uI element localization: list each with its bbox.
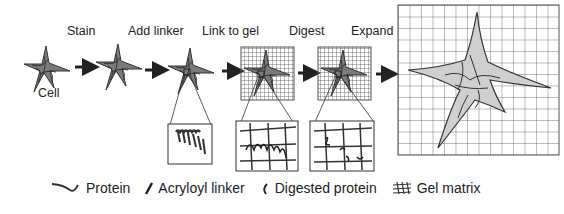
step-label-cell: Cell xyxy=(38,86,60,100)
legend-label: Digested protein xyxy=(275,180,377,196)
legend-item-gel-matrix: Gel matrix xyxy=(391,180,481,196)
gel-matrix-icon xyxy=(391,181,413,195)
step-label-digest: Digest xyxy=(289,24,324,38)
step-label-link-to-gel: Link to gel xyxy=(202,24,259,38)
linker-cell-illustration xyxy=(168,48,214,164)
expanded-cell-illustration xyxy=(398,5,559,155)
acryloyl-linker-icon xyxy=(144,181,154,195)
digested-cell-illustration xyxy=(310,47,374,171)
step-label-stain: Stain xyxy=(67,24,96,38)
step-label-expand: Expand xyxy=(351,24,393,38)
digested-protein-icon xyxy=(259,181,271,195)
step-label-add-linker: Add linker xyxy=(128,24,184,38)
protein-icon xyxy=(50,181,82,195)
stained-cell-illustration xyxy=(96,44,142,90)
gel-linked-cell-illustration xyxy=(236,47,298,171)
legend-item-protein: Protein xyxy=(50,180,130,196)
legend-item-digested-protein: Digested protein xyxy=(259,180,377,196)
legend: Protein Acryloyl linker Digested protein… xyxy=(50,180,494,196)
legend-item-acryloyl-linker: Acryloyl linker xyxy=(144,180,244,196)
legend-label: Protein xyxy=(86,180,130,196)
legend-label: Gel matrix xyxy=(417,180,481,196)
legend-label: Acryloyl linker xyxy=(158,180,244,196)
